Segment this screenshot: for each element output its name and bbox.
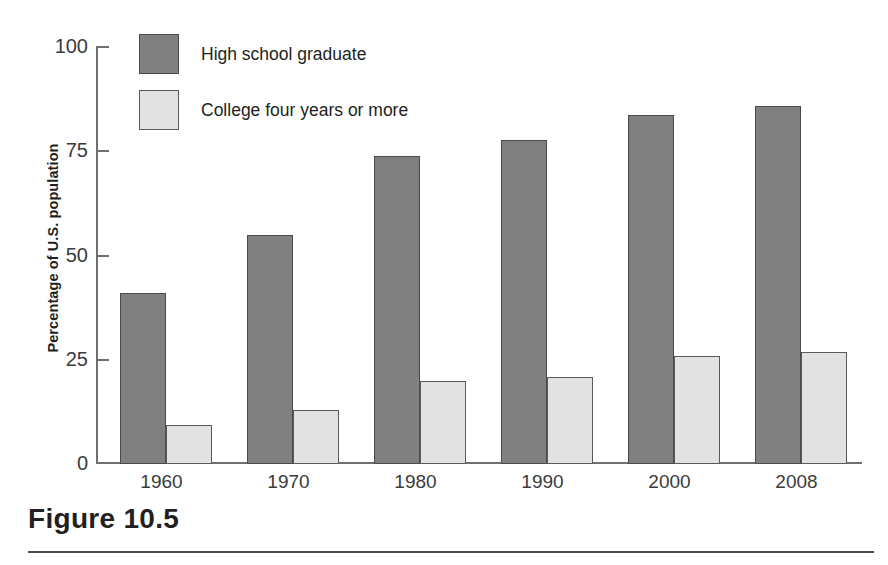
legend-swatch-icon xyxy=(139,90,179,130)
x-tick-label: 2008 xyxy=(733,470,860,494)
bar-college-four-years-or-more[interactable] xyxy=(674,356,720,464)
bar-group xyxy=(733,0,860,464)
bar-high-school-graduate[interactable] xyxy=(755,106,801,464)
bar-college-four-years-or-more[interactable] xyxy=(801,352,847,464)
bar-high-school-graduate[interactable] xyxy=(374,156,420,464)
x-tick-label: 1960 xyxy=(98,470,225,494)
y-tick-label: 75 xyxy=(42,140,88,160)
chart-plot-area: Percentage of U.S. population 100 75 50 … xyxy=(0,0,888,500)
x-tick-label: 1990 xyxy=(479,470,606,494)
bar-high-school-graduate[interactable] xyxy=(120,293,166,464)
caption-divider xyxy=(28,551,874,553)
y-tick-label: 25 xyxy=(42,349,88,369)
figure-caption-label: Figure 10.5 xyxy=(28,503,179,535)
x-axis-tick-labels: 1960 1970 1980 1990 2000 2008 xyxy=(98,470,862,500)
x-tick-label: 1980 xyxy=(352,470,479,494)
chart-legend: High school graduate College four years … xyxy=(139,32,408,144)
bar-high-school-graduate[interactable] xyxy=(501,140,547,465)
bar-college-four-years-or-more[interactable] xyxy=(166,425,212,465)
x-tick-label: 2000 xyxy=(606,470,733,494)
legend-item-college-four-years-or-more[interactable]: College four years or more xyxy=(139,88,408,132)
bar-college-four-years-or-more[interactable] xyxy=(293,410,339,464)
bar-college-four-years-or-more[interactable] xyxy=(420,381,466,464)
y-axis-tick-labels: 100 75 50 25 0 xyxy=(28,0,88,500)
legend-label: College four years or more xyxy=(201,100,408,121)
bar-high-school-graduate[interactable] xyxy=(247,235,293,464)
bar-group xyxy=(606,0,733,464)
y-tick-label: 100 xyxy=(42,36,88,56)
legend-swatch-icon xyxy=(139,34,179,74)
bar-college-four-years-or-more[interactable] xyxy=(547,377,593,464)
bar-group xyxy=(479,0,606,464)
figure-container: Percentage of U.S. population 100 75 50 … xyxy=(0,0,888,565)
legend-label: High school graduate xyxy=(201,44,366,65)
bar-high-school-graduate[interactable] xyxy=(628,115,674,464)
x-tick-label: 1970 xyxy=(225,470,352,494)
y-tick-label: 50 xyxy=(42,245,88,265)
y-tick-label: 0 xyxy=(42,453,88,473)
legend-item-high-school-graduate[interactable]: High school graduate xyxy=(139,32,408,76)
